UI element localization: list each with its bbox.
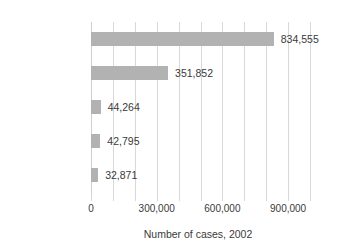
bar (91, 100, 101, 114)
x-tick-label: 0 (88, 203, 94, 215)
x-axis-title-text: Number of cases, 2002 (108, 228, 253, 240)
bar-value-label: 32,871 (105, 168, 137, 182)
tick-mark (310, 194, 311, 201)
x-tick-label: 900,000 (270, 203, 306, 215)
tick-mark (266, 194, 267, 201)
bar (91, 134, 100, 148)
bar-value-label: 351,852 (175, 66, 213, 80)
x-tick-label: 600,000 (204, 203, 240, 215)
x-tick-label: 300,000 (139, 203, 175, 215)
bar-row: Syphilis32,871 (0, 158, 360, 192)
bar-value-label: 44,264 (108, 100, 140, 114)
bar (91, 32, 274, 46)
tick-mark (222, 194, 223, 201)
tick-mark (179, 194, 180, 201)
bar-chart: Chlamydia834,555Gonorrhea351,852Salmonel… (0, 0, 360, 251)
tick-mark (91, 194, 92, 201)
bar-value-label: 42,795 (107, 134, 139, 148)
tick-mark (244, 194, 245, 201)
bar-value-label: 834,555 (281, 32, 319, 46)
bar (91, 66, 168, 80)
x-axis-title: Number of cases, 2002 (0, 228, 360, 240)
tick-mark (201, 194, 202, 201)
bar (91, 168, 98, 182)
bar-row: Gonorrhea351,852 (0, 56, 360, 90)
tick-mark (135, 194, 136, 201)
tick-mark (157, 194, 158, 201)
bar-row: AIDS42,795 (0, 124, 360, 158)
bar-row: Salmonellosis*44,264 (0, 90, 360, 124)
tick-mark (113, 194, 114, 201)
bar-row: Chlamydia834,555 (0, 22, 360, 56)
tick-mark (288, 194, 289, 201)
